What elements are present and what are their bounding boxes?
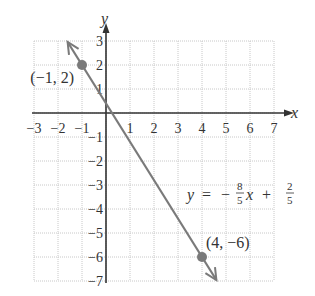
x-axis-label: x	[290, 104, 298, 121]
const-denominator: 5	[287, 194, 293, 206]
equation-plus: +	[262, 186, 271, 203]
x-tick-label: 5	[223, 121, 230, 136]
line-chart: −3−2−11234567321−1−2−3−4−5−6−7 (−1, 2)(4…	[0, 0, 315, 296]
y-tick-label: −6	[88, 250, 103, 265]
equation-lhs: y	[185, 186, 195, 204]
equation-equals: =	[202, 186, 211, 203]
y-tick-label: −5	[88, 226, 103, 241]
data-point-label: (−1, 2)	[30, 69, 74, 87]
x-tick-label: 1	[127, 121, 134, 136]
coef-denominator: 5	[237, 194, 243, 206]
data-point	[197, 252, 207, 262]
line-arrow-end-icon	[205, 267, 216, 280]
y-tick-label: −7	[88, 274, 103, 289]
axes	[32, 23, 294, 283]
x-tick-label: −2	[51, 121, 66, 136]
y-tick-label: 3	[96, 34, 103, 49]
y-tick-label: −1	[88, 130, 103, 145]
y-tick-label: −3	[88, 178, 103, 193]
const-numerator: 2	[287, 180, 293, 192]
line-arrow-start-icon	[68, 42, 79, 55]
equation-minus: −	[221, 186, 230, 203]
y-tick-label: −2	[88, 154, 103, 169]
x-tick-label: 2	[151, 121, 158, 136]
x-tick-label: 6	[247, 121, 254, 136]
x-tick-label: 3	[175, 121, 182, 136]
x-tick-label: 7	[271, 121, 278, 136]
data-point	[77, 60, 87, 70]
y-axis-label: y	[99, 10, 109, 28]
y-tick-label: −4	[88, 202, 103, 217]
equation-var: x	[245, 186, 253, 203]
x-tick-label: 4	[199, 121, 206, 136]
x-tick-label: −3	[27, 121, 42, 136]
equation-label: y = − 8 5 x + 2 5	[185, 180, 294, 206]
data-point-label: (4, −6)	[206, 234, 250, 252]
coef-numerator: 8	[237, 180, 243, 192]
y-tick-label: 2	[96, 58, 103, 73]
